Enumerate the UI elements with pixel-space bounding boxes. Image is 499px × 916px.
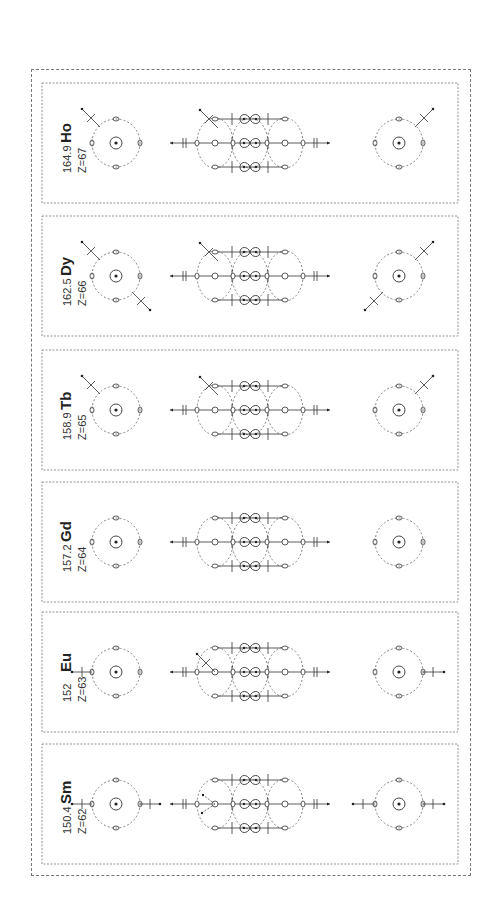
element-symbol: Gd bbox=[57, 521, 74, 542]
atomic-number: Z=67 bbox=[76, 148, 88, 173]
panel-tb-content: Tb 158.9 Z=65 bbox=[57, 375, 434, 440]
atomic-number: Z=63 bbox=[76, 677, 88, 702]
atomic-number: Z=66 bbox=[76, 281, 88, 306]
element-symbol: Ho bbox=[57, 123, 74, 143]
atomic-number: Z=64 bbox=[76, 547, 88, 572]
element-symbol: Sm bbox=[57, 781, 74, 804]
atomic-mass: 152 bbox=[61, 684, 73, 702]
panel-gd-content: Gd 157.2 Z=64 bbox=[57, 512, 425, 572]
element-symbol: Eu bbox=[57, 653, 74, 672]
atomic-mass: 150.4 bbox=[61, 806, 73, 834]
panel-eu-content: Eu 152 Z=63 bbox=[57, 642, 445, 702]
element-symbol: Dy bbox=[57, 256, 74, 276]
atomic-number: Z=65 bbox=[76, 415, 88, 440]
atomic-mass: 157.2 bbox=[61, 544, 73, 572]
panel-ho-content: Ho 164.9 Z=67 bbox=[57, 108, 434, 173]
panel-sm-content: Sm 150.4 Z=62 bbox=[57, 774, 445, 834]
atomic-mass: 162.5 bbox=[61, 278, 73, 306]
atomic-number: Z=62 bbox=[76, 809, 88, 834]
element-diagram: Ho 164.9 Z=67 Dy 162.5 Z=66 Tb 158.9 Z=6… bbox=[0, 0, 499, 916]
atomic-mass: 164.9 bbox=[61, 145, 73, 173]
panel-dy-content: Dy 162.5 Z=66 bbox=[57, 241, 434, 312]
element-symbol: Tb bbox=[57, 392, 74, 410]
atomic-mass: 158.9 bbox=[61, 412, 73, 440]
